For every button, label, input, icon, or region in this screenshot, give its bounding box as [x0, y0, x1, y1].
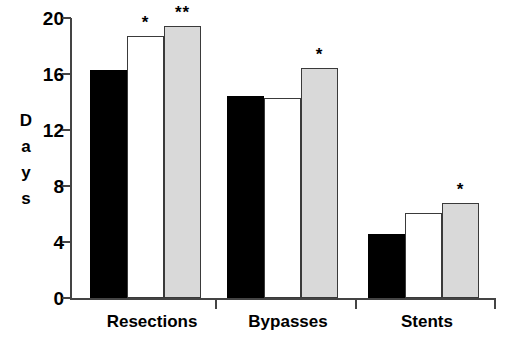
significance-marker: *: [316, 46, 324, 63]
y-tick-label-12: 12: [30, 121, 64, 140]
bar-stents-gray: [442, 203, 479, 298]
y-tick-label-4: 4: [30, 233, 64, 252]
y-tick-label-16: 16: [30, 65, 64, 84]
x-axis-label-resections: Resections: [107, 312, 198, 332]
bar-resections-black: [90, 70, 127, 298]
bar-stents-black: [368, 234, 405, 298]
bar-bypasses-white: [264, 98, 301, 298]
x-axis-group-tick: [215, 300, 217, 309]
bar-bypasses-gray: [301, 68, 338, 298]
x-axis-group-tick: [355, 300, 357, 309]
significance-marker: *: [142, 14, 150, 31]
significance-marker: **: [175, 4, 190, 21]
x-axis-group-tick: [494, 300, 496, 309]
x-axis-label-bypasses: Bypasses: [248, 312, 327, 332]
y-tick-label-8: 8: [30, 177, 64, 196]
bar-chart: D a y s 20 16 12 8 4 0 ***** Resections …: [0, 0, 510, 350]
bar-bypasses-black: [227, 96, 264, 298]
bar-resections-gray: [164, 26, 201, 298]
bar-resections-white: [127, 36, 164, 298]
significance-marker: *: [457, 181, 465, 198]
bar-stents-white: [405, 213, 442, 298]
y-tick-label-20: 20: [30, 9, 64, 28]
y-axis-tick-labels: 20 16 12 8 4 0: [24, 0, 64, 350]
y-tick-label-0: 0: [30, 289, 64, 308]
x-axis-label-stents: Stents: [401, 312, 453, 332]
plot-area: *****: [70, 0, 496, 300]
